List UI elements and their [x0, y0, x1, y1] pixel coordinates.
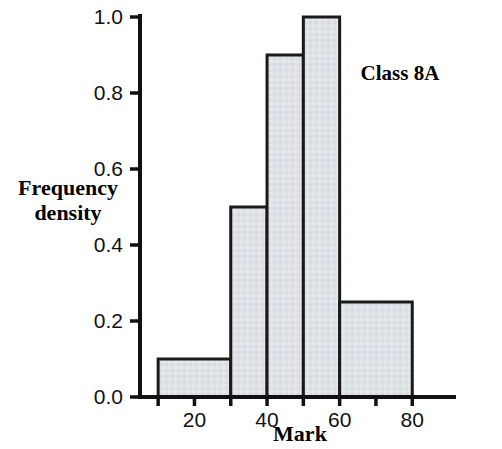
y-axis-tick-label: 0.4 [94, 233, 124, 256]
series-annotation-label: Class 8A [361, 61, 441, 85]
chart-canvas: 0.00.20.40.60.81.0 20406080 Mark Frequen… [0, 0, 502, 449]
x-axis-tick-label: 80 [401, 408, 424, 431]
y-axis-title-line1: Frequency [18, 175, 118, 200]
histogram-bar [231, 207, 267, 397]
y-axis-tick-label: 0.8 [94, 81, 123, 104]
histogram-bar [340, 302, 413, 397]
x-axis-tick-label: 60 [328, 408, 351, 431]
y-axis-tick-label: 0.2 [94, 309, 123, 332]
y-axis-title-line2: density [34, 200, 101, 225]
histogram-bar [158, 359, 231, 397]
x-axis-title: Mark [273, 421, 328, 446]
histogram-bar [267, 55, 303, 397]
y-axis-tick-label: 1.0 [94, 5, 123, 28]
y-axis-tick-label: 0.0 [94, 385, 123, 408]
x-axis-tick-label: 20 [183, 408, 206, 431]
histogram-bar [303, 17, 339, 397]
histogram-chart: 0.00.20.40.60.81.0 20406080 Mark Frequen… [0, 0, 502, 449]
